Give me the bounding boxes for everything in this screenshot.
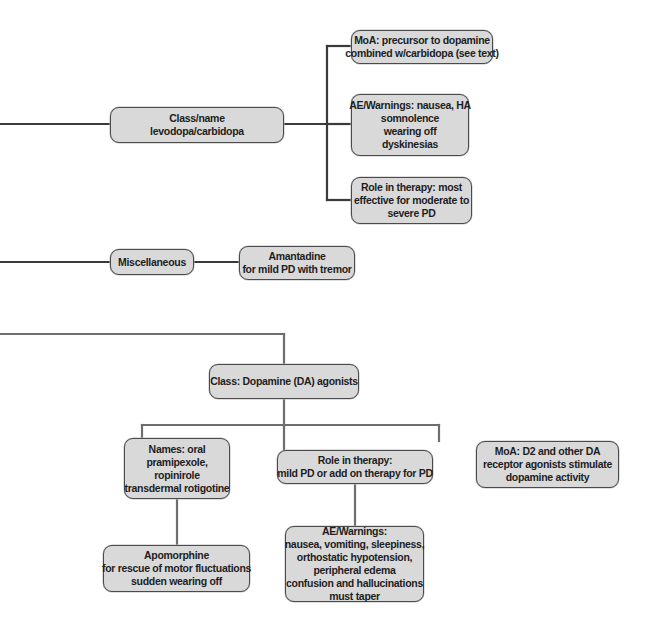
node-line: Class/name [169,112,224,125]
node-line: somnolence [381,112,439,125]
amantadine-node: Amantadine for mild PD with tremor [239,246,355,280]
node-line: pramipexole, [146,456,207,469]
node-line: wearing off [384,125,437,138]
miscellaneous-node: Miscellaneous [110,249,194,275]
da-ae-node: AE/Warnings: nausea, vomiting, sleepines… [285,526,424,602]
node-line: sudden wearing off [131,575,222,588]
node-line: combined w/carbidopa (see text) [345,47,499,60]
node-line: peripheral edema [313,564,395,577]
node-line: Amantadine [268,250,325,263]
node-line: for rescue of motor fluctuations [102,562,251,575]
node-line: effective for moderate to [354,194,469,207]
levodopa-class-node: Class/name levodopa/carbidopa [110,107,284,143]
node-line: must taper [329,590,380,603]
node-line: transdermal rotigotine [125,482,230,495]
node-line: levodopa/carbidopa [150,125,244,138]
node-line: Role in therapy: [318,454,393,467]
da-moa-node: MoA: D2 and other DA receptor agonists s… [476,441,619,488]
node-line: for mild PD with tremor [242,263,351,276]
node-line: nausea, vomiting, sleepiness, [285,538,425,551]
node-line: Names: oral [149,443,206,456]
da-role-node: Role in therapy: mild PD or add on thera… [277,450,433,484]
levodopa-role-node: Role in therapy: most effective for mode… [351,177,472,224]
node-line: dyskinesias [382,138,438,151]
da-names-node: Names: oral pramipexole, ropinirole tran… [124,438,230,499]
node-line: AE/Warnings: nausea, HA [349,99,471,112]
node-line: orthostatic hypotension, [297,551,412,564]
node-line: mild PD or add on therapy for PD [277,467,433,480]
node-line: Class: Dopamine (DA) agonists [210,375,358,388]
node-line: MoA: D2 and other DA [495,445,600,458]
node-line: severe PD [387,207,435,220]
node-line: AE/Warnings: [322,525,387,538]
node-line: confusion and hallucinations [286,577,423,590]
levodopa-ae-node: AE/Warnings: nausea, HA somnolence weari… [351,94,469,156]
node-line: MoA: precursor to dopamine [354,34,490,47]
levodopa-moa-node: MoA: precursor to dopamine combined w/ca… [351,30,493,64]
node-line: Apomorphine [144,549,209,562]
apomorphine-node: Apomorphine for rescue of motor fluctuat… [103,545,250,592]
node-line: Role in therapy: most [361,181,462,194]
node-line: Miscellaneous [118,256,186,269]
da-class-node: Class: Dopamine (DA) agonists [209,364,359,399]
node-line: dopamine activity [506,471,590,484]
diagram-canvas: Class/name levodopa/carbidopa MoA: precu… [0,0,651,644]
node-line: ropinirole [154,469,199,482]
node-line: receptor agonists stimulate [483,458,612,471]
